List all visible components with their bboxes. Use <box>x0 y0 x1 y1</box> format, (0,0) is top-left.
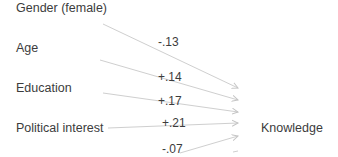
outcome-knowledge: Knowledge <box>261 121 323 135</box>
coefficient-age: +.14 <box>158 70 182 84</box>
coefficient-lower: -.07 <box>162 142 183 156</box>
predictor-age: Age <box>16 41 38 55</box>
coefficient-education: +.17 <box>158 94 182 108</box>
predictor-education: Education <box>16 81 72 95</box>
coefficient-political-interest: +.21 <box>162 116 186 130</box>
arrow-partial <box>233 151 238 152</box>
predictor-political-interest: Political interest <box>16 121 104 135</box>
predictor-gender: Gender (female) <box>16 1 107 15</box>
coefficient-gender: -.13 <box>158 35 179 49</box>
arrow-lower <box>180 136 238 153</box>
